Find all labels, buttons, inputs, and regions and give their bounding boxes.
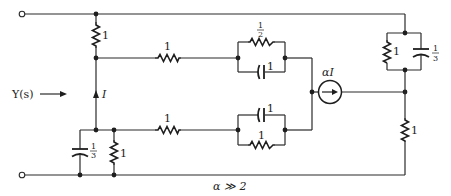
current-I-arrow-icon xyxy=(93,90,99,98)
capacitor-lower-parallel xyxy=(258,108,264,122)
admittance-label: Y(s) xyxy=(11,88,34,101)
svg-text:2: 2 xyxy=(258,30,263,39)
node xyxy=(403,31,408,36)
resistor-lower-series xyxy=(155,127,181,134)
resistor-upper-parallel xyxy=(248,39,275,46)
capacitor-right-top-value: 1 3 xyxy=(432,44,439,63)
dependent-source-label: αI xyxy=(322,66,334,79)
node xyxy=(236,128,241,133)
capacitor-left-bottom xyxy=(72,130,88,175)
resistor-lower-series-value: 1 xyxy=(164,112,171,125)
resistor-left-top-value: 1 xyxy=(102,29,109,42)
upper-output-wire xyxy=(285,58,312,130)
resistor-lower-parallel-value: 1 xyxy=(258,129,265,142)
resistor-left-bottom-value: 1 xyxy=(120,147,127,160)
node xyxy=(236,56,241,61)
resistor-right-bottom xyxy=(402,118,409,142)
resistor-upper-series-value: 1 xyxy=(164,40,171,53)
condition-label: α ≫ 2 xyxy=(213,180,246,193)
resistor-upper-series xyxy=(155,55,181,62)
node xyxy=(94,12,99,17)
dependent-current-source-icon xyxy=(319,81,342,104)
svg-text:1: 1 xyxy=(91,142,96,151)
upper-parallel-block xyxy=(238,42,285,72)
resistor-left-top xyxy=(93,22,100,48)
svg-text:3: 3 xyxy=(91,151,96,160)
node xyxy=(94,56,99,61)
capacitor-upper-parallel-value: 1 xyxy=(267,60,274,73)
node xyxy=(283,128,288,133)
resistor-right-top xyxy=(384,40,391,63)
input-terminal-bottom xyxy=(19,172,25,178)
node xyxy=(112,128,117,133)
admittance-arrow-icon xyxy=(40,91,67,97)
svg-text:3: 3 xyxy=(433,54,438,63)
top-rail xyxy=(25,14,405,33)
resistor-upper-parallel-value: 1 2 xyxy=(257,21,264,39)
resistor-lower-parallel xyxy=(248,142,275,149)
svg-text:1: 1 xyxy=(258,21,263,30)
svg-text:1: 1 xyxy=(433,44,438,53)
capacitor-upper-parallel xyxy=(258,65,264,79)
node xyxy=(112,173,117,178)
resistor-left-bottom xyxy=(111,140,118,165)
capacitor-left-bottom-value: 1 3 xyxy=(90,142,97,160)
capacitor-lower-parallel-value: 1 xyxy=(267,102,274,115)
node xyxy=(310,90,315,95)
node xyxy=(78,173,83,178)
resistor-right-bottom-value: 1 xyxy=(411,124,418,137)
resistor-right-top-value: 1 xyxy=(393,45,400,58)
circuit-diagram: Y(s) 1 I 1 1 2 1 xyxy=(0,0,451,196)
right-top-parallel-block xyxy=(387,33,421,92)
node xyxy=(403,68,408,73)
input-terminal-top xyxy=(19,11,25,17)
current-I-label: I xyxy=(101,88,107,101)
node xyxy=(94,128,99,133)
